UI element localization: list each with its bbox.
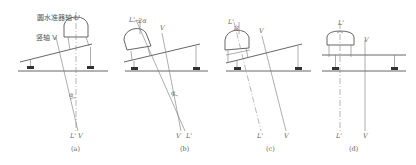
foot-screw <box>27 66 34 69</box>
base-plate <box>124 44 200 62</box>
top-angle-label: 2α <box>137 17 147 25</box>
panel-c: L' α V L' V (c) <box>225 18 311 153</box>
vertical-axis-line <box>56 37 78 131</box>
axis-label-L: L' <box>256 132 263 140</box>
foot-screw <box>193 67 200 70</box>
axis-label-L: L' <box>185 132 192 140</box>
vertical-axis-line <box>262 36 286 131</box>
caption-c: (c) <box>266 145 275 153</box>
panel-b: L' 2α V α V L' (b) <box>124 16 208 153</box>
angle-label: α <box>171 89 176 97</box>
circular-axis-callout: 圆水准器轴 L' <box>37 13 80 22</box>
circular-level <box>327 31 354 45</box>
foot-screw <box>295 67 302 70</box>
top-label-L: L' <box>128 16 135 24</box>
circular-level <box>124 29 151 51</box>
vertical-axis-line <box>162 33 181 131</box>
foot-screw <box>87 66 94 69</box>
foot-screw <box>234 67 241 70</box>
caption-a: (a) <box>71 145 80 153</box>
top-label-V: V <box>259 27 265 35</box>
axis-label-V: V <box>176 132 182 140</box>
circular-axis-line <box>234 22 261 131</box>
foot-screw <box>131 67 138 70</box>
top-angle-label: α <box>234 25 239 33</box>
caption-d: (d) <box>349 145 359 153</box>
axis-label-V: V <box>78 132 84 140</box>
foot-screw <box>391 67 398 70</box>
top-label-V: V <box>160 24 166 32</box>
axis-label-V: V <box>363 132 369 140</box>
vertical-axis-callout: 竖轴 V <box>36 33 57 42</box>
circular-level-diagram: α L' V 圆水准器轴 L' 竖轴 V (a) L' 2α V α V L' … <box>0 0 416 165</box>
angle-label: α <box>69 91 74 99</box>
top-label-V: V <box>364 36 370 44</box>
panel-d: L' V L' V (d) <box>322 19 406 153</box>
foot-screw <box>332 67 339 70</box>
axis-label-L: L' <box>69 132 76 140</box>
top-label-L: L' <box>337 19 344 27</box>
caption-b: (b) <box>180 145 190 153</box>
axis-label-L: L' <box>335 132 342 140</box>
axis-label-V: V <box>284 132 290 140</box>
base-plate <box>20 44 92 62</box>
panel-a: α L' V 圆水准器轴 L' 竖轴 V (a) <box>18 12 108 153</box>
base-plate <box>226 44 302 63</box>
